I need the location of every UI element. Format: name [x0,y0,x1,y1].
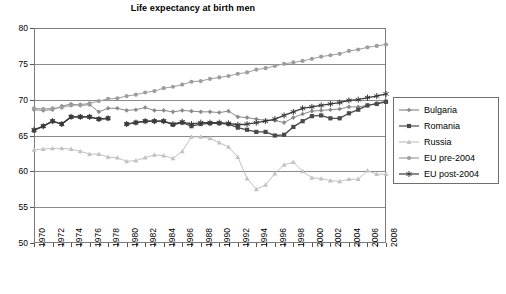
diamond-marker [397,103,421,117]
diamond-marker [328,107,333,112]
diamond-marker [134,107,139,112]
circle-marker [208,77,212,81]
circle-marker [301,59,305,63]
circle-marker [162,86,166,90]
y-axis-tick-label: 55 [4,203,28,212]
square-marker [407,124,411,128]
square-marker [365,103,369,107]
series-layer [34,28,386,243]
circle-marker [189,80,193,84]
diamond-marker [245,115,250,120]
triangle-marker [365,168,370,173]
asterisk-marker [397,167,421,181]
diamond-marker [407,108,412,113]
circle-marker [60,105,64,109]
legend-label: EU pre-2004 [421,153,475,163]
circle-marker [226,74,230,78]
asterisk-marker [291,109,296,115]
y-axis-tick-label: 60 [4,167,28,176]
plot-area [34,28,386,243]
x-axis-tick-mark [145,243,146,247]
x-axis-tick-mark [386,243,387,247]
circle-marker [78,103,82,107]
series-russia [32,134,389,191]
y-axis-tick-label: 80 [4,24,28,33]
circle-marker [254,67,258,71]
circle-marker [245,70,249,74]
legend-label: Bulgaria [421,105,457,115]
legend-item-russia[interactable]: Russia [397,134,495,150]
square-marker [273,133,277,137]
diamond-marker [171,110,176,115]
square-marker [356,108,360,112]
x-axis-tick-mark [256,243,257,247]
x-axis-tick-mark [34,243,35,247]
circle-marker [32,106,36,110]
square-marker [254,130,258,134]
circle-marker [115,96,119,100]
diamond-marker [319,108,324,113]
series-line [34,137,386,189]
legend-item-eu-post-2004[interactable]: EU post-2004 [397,166,495,182]
chart-screenshot: Life expectancy at birth men 80757065605… [0,0,506,294]
diamond-marker [291,115,296,120]
circle-marker [347,49,351,53]
diamond-marker [347,105,352,110]
x-axis-tick-mark [293,243,294,247]
diamond-marker [152,108,157,113]
chart-title: Life expectancy at birth men [0,3,386,13]
x-axis-tick-mark [312,243,313,247]
square-marker [263,130,267,134]
circle-marker [291,60,295,64]
square-marker [347,111,351,115]
x-axis-tick-mark [182,243,183,247]
diamond-marker [235,115,240,120]
triangle-marker [397,135,421,149]
circle-marker [319,55,323,59]
x-axis-tick-mark [349,243,350,247]
circle-marker [397,151,421,165]
legend-label: EU post-2004 [421,169,479,179]
circle-marker [134,93,138,97]
circle-marker [152,89,156,93]
diamond-marker [161,108,166,113]
square-marker [301,119,305,123]
triangle-marker [291,159,296,164]
diamond-marker [208,110,213,115]
square-marker [384,100,388,104]
x-axis-tick-mark [164,243,165,247]
x-axis-tick-mark [330,243,331,247]
x-axis-tick-mark [71,243,72,247]
asterisk-marker [282,112,287,118]
diamond-marker [115,106,120,111]
circle-marker [375,44,379,48]
square-marker [282,133,286,137]
legend-item-bulgaria[interactable]: Bulgaria [397,102,495,118]
legend-label: Russia [421,137,452,147]
square-marker [319,113,323,117]
circle-marker [365,45,369,49]
diamond-marker [143,105,148,110]
series-line [34,44,386,109]
circle-marker [87,101,91,105]
x-axis-tick-mark [238,243,239,247]
diamond-marker [300,112,305,117]
circle-marker [199,79,203,83]
circle-marker [273,64,277,68]
diamond-marker [180,108,185,113]
legend: BulgariaRomaniaRussiaEU pre-2004EU post-… [393,97,499,184]
circle-marker [50,106,54,110]
circle-marker [263,66,267,70]
circle-marker [69,103,73,107]
x-axis-tick-mark [90,243,91,247]
diamond-marker [106,106,111,111]
legend-item-romania[interactable]: Romania [397,118,495,134]
series-eu-pre-2004 [32,42,388,111]
legend-item-eu-pre-2004[interactable]: EU pre-2004 [397,150,495,166]
x-axis-tick-mark [275,243,276,247]
circle-marker [356,47,360,51]
square-marker [245,128,249,132]
diamond-marker [226,109,231,114]
circle-marker [328,53,332,57]
x-axis-tick-mark [108,243,109,247]
